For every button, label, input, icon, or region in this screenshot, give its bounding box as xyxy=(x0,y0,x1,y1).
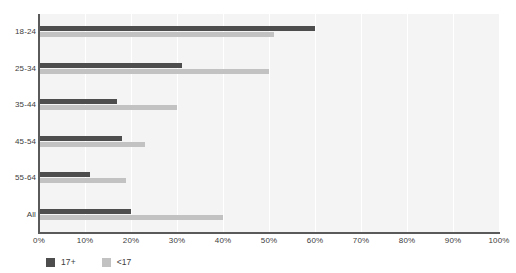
y-axis-label-All: All xyxy=(2,210,36,219)
x-tick-50%: 50% xyxy=(249,236,289,245)
gridline-100% xyxy=(499,14,500,233)
bars-layer xyxy=(39,14,499,233)
horizontal-bar-chart: 18-2425-3435-4445-5455-64All 0%10%20%30%… xyxy=(0,0,516,273)
x-tick-90%: 90% xyxy=(433,236,473,245)
y-axis-label-45-54: 45-54 xyxy=(2,137,36,146)
chart-legend: 17+<17 xyxy=(46,255,157,269)
bar-45-54-<17 xyxy=(39,142,145,147)
x-tick-20%: 20% xyxy=(111,236,151,245)
y-axis-labels: 18-2425-3435-4445-5455-64All xyxy=(0,0,36,273)
legend-swatch-icon xyxy=(46,258,55,267)
x-tick-40%: 40% xyxy=(203,236,243,245)
x-tick-70%: 70% xyxy=(341,236,381,245)
bar-55-64-17+ xyxy=(39,172,90,177)
x-axis-tick-labels: 0%10%20%30%40%50%60%70%80%90%100% xyxy=(0,236,516,250)
bar-25-34-17+ xyxy=(39,63,182,68)
y-axis-label-25-34: 25-34 xyxy=(2,64,36,73)
bar-18-24-<17 xyxy=(39,32,274,37)
x-tick-10%: 10% xyxy=(65,236,105,245)
x-tick-80%: 80% xyxy=(387,236,427,245)
x-tick-30%: 30% xyxy=(157,236,197,245)
x-tick-60%: 60% xyxy=(295,236,335,245)
bar-25-34-<17 xyxy=(39,69,269,74)
y-axis-label-35-44: 35-44 xyxy=(2,100,36,109)
legend-label: <17 xyxy=(117,257,132,267)
y-axis-label-18-24: 18-24 xyxy=(2,27,36,36)
bar-45-54-17+ xyxy=(39,136,122,141)
bar-All-17+ xyxy=(39,209,131,214)
y-axis-line xyxy=(38,14,40,234)
bar-All-<17 xyxy=(39,215,223,220)
y-axis-label-55-64: 55-64 xyxy=(2,173,36,182)
x-tick-100%: 100% xyxy=(479,236,516,245)
bar-35-44-<17 xyxy=(39,105,177,110)
x-tick-0%: 0% xyxy=(19,236,59,245)
legend-item-17+[interactable]: 17+ xyxy=(46,257,76,267)
legend-item-<17[interactable]: <17 xyxy=(102,257,132,267)
legend-swatch-icon xyxy=(102,258,111,267)
bar-55-64-<17 xyxy=(39,178,126,183)
x-axis-line xyxy=(39,232,500,234)
legend-label: 17+ xyxy=(61,257,76,267)
bar-35-44-17+ xyxy=(39,99,117,104)
bar-18-24-17+ xyxy=(39,26,315,31)
